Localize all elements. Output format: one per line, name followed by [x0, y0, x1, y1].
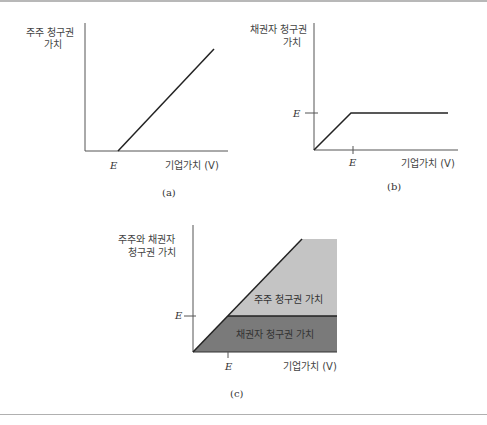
figure-canvas: 주주 청구권 가치 E 기업가치 (V) (a) 채권자 청구권 가치 E E …: [0, 0, 487, 425]
equity-area-label: 주주 청구권 가치: [254, 294, 323, 305]
y-label-line1: 주주 청구권: [26, 27, 74, 38]
chart-a: 주주 청구권 가치 E 기업가치 (V) (a): [26, 23, 228, 198]
caption-b: (b): [387, 181, 401, 192]
y-tick-e: E: [292, 108, 301, 119]
x-tick-e: E: [224, 361, 233, 372]
x-tick-e: E: [348, 157, 357, 168]
y-label-line2: 가치: [283, 37, 301, 48]
caption-a: (a): [162, 187, 176, 198]
x-label: 기업가치 (V): [401, 157, 455, 169]
y-label-line1: 채권자 청구권: [250, 24, 307, 35]
bottom-rule: [0, 414, 487, 415]
chart-c: 주주와 채권자 청구권 가치 E 주주 청구권 가치 채권자 청구권 가치 E …: [118, 225, 337, 399]
x-tick-e: E: [109, 160, 118, 171]
debt-area-label: 채권자 청구권 가치: [236, 329, 314, 340]
equity-payoff-line: [118, 49, 214, 151]
caption-c: (c): [230, 388, 244, 399]
y-tick-e: E: [174, 310, 183, 321]
x-label: 기업가치 (V): [283, 360, 337, 372]
chart-b: 채권자 청구권 가치 E E 기업가치 (V) (b): [250, 23, 458, 192]
y-label-line1: 주주와 채권자: [118, 234, 175, 245]
y-label-line2: 청구권 가치: [128, 247, 176, 258]
debt-payoff-line: [314, 113, 448, 150]
y-label-line2: 가치: [44, 39, 62, 50]
x-label: 기업가치 (V): [165, 159, 219, 171]
